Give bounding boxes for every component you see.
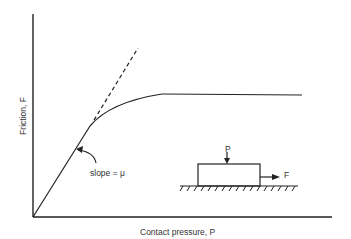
x-axis-label: Contact pressure, P [140, 227, 215, 237]
normal-force-label: P [225, 144, 231, 154]
down-arrowhead-icon [224, 158, 230, 164]
ground-hatching [180, 186, 295, 191]
plateau-line [162, 94, 302, 95]
dashed-extrapolation-line [94, 48, 138, 120]
transition-curve [90, 94, 162, 126]
slope-annotation: slope = μ [90, 168, 125, 178]
linear-region-line [33, 126, 90, 217]
sliding-block [198, 164, 260, 186]
tangential-force-label: F [284, 170, 289, 180]
friction-diagram [0, 0, 351, 239]
right-arrowhead-icon [272, 174, 280, 180]
y-axis-label: Friction, F [18, 97, 28, 135]
